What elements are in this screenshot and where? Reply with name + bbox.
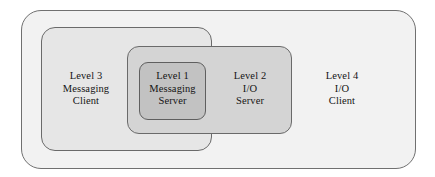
label-level2-line2: I/O — [212, 83, 288, 96]
label-level3: Level 3 Messaging Client — [48, 70, 124, 108]
label-level2: Level 2 I/O Server — [212, 70, 288, 108]
label-level4: Level 4 I/O Client — [300, 70, 384, 108]
label-level1-line1: Level 1 — [140, 70, 205, 83]
label-level1: Level 1 Messaging Server — [140, 70, 205, 108]
label-level3-line3: Client — [48, 95, 124, 108]
label-level2-line1: Level 2 — [212, 70, 288, 83]
label-level4-line2: I/O — [300, 83, 384, 96]
label-level3-line2: Messaging — [48, 83, 124, 96]
label-level4-line1: Level 4 — [300, 70, 384, 83]
label-level4-line3: Client — [300, 95, 384, 108]
levels-diagram: Level 3 Messaging Client Level 1 Messagi… — [0, 0, 435, 177]
label-level3-line1: Level 3 — [48, 70, 124, 83]
label-level2-line3: Server — [212, 95, 288, 108]
label-level1-line3: Server — [140, 95, 205, 108]
label-level1-line2: Messaging — [140, 83, 205, 96]
